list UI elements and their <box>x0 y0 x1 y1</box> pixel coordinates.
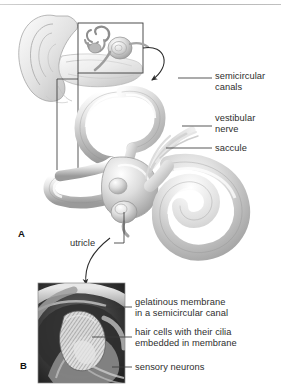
magnification-arrow-a <box>143 48 164 80</box>
panel-letter-b: B <box>20 360 27 371</box>
label-gelatinous-membrane: gelatinous membrane in a semicircular ca… <box>135 297 228 319</box>
anatomical-figure: semicircular canals vestibular nerve sac… <box>0 0 281 386</box>
cochlea <box>160 162 242 253</box>
panel-letter-a: A <box>18 228 25 239</box>
label-sensory-neurons: sensory neurons <box>135 362 204 373</box>
panel-b-illustration <box>30 283 136 384</box>
label-vestibular-nerve: vestibular nerve <box>215 113 255 135</box>
label-hair-cells: hair cells with their cilia embedded in … <box>135 327 237 349</box>
inset-box-labyrinth <box>78 23 148 73</box>
membranous-labyrinth <box>49 91 242 252</box>
label-semicircular-canals: semicircular canals <box>215 71 265 93</box>
label-utricle: utricle <box>70 238 95 249</box>
label-saccule: saccule <box>215 143 247 154</box>
